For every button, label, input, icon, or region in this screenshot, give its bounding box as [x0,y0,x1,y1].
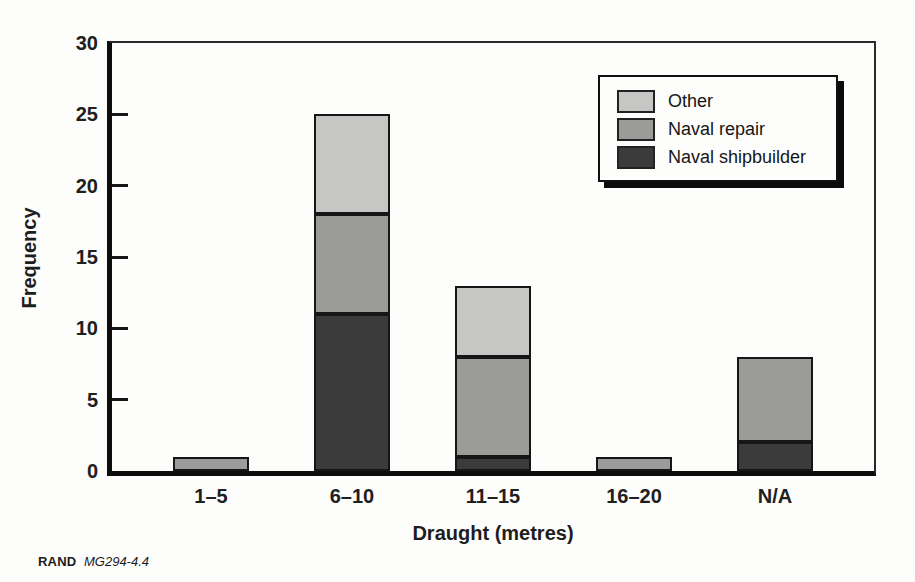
y-tick-mark-15 [112,256,128,259]
bar-segment-16-20-naval-repair [596,457,672,471]
x-axis-title: Draught (metres) [412,522,573,545]
bar-segment-1-5-naval-repair [173,457,249,471]
y-tick-label-20: 20 [40,174,98,198]
legend-label-other: Other [668,90,713,113]
y-tick-label-0: 0 [40,459,98,483]
document-id-label: MG294-4.4 [84,554,149,569]
y-tick-mark-20 [112,184,128,187]
bar-segment-n-a-naval-repair [737,357,813,442]
bar-segment-6-10-naval-shipbuilder [314,314,390,471]
y-tick-label-30: 30 [40,31,98,55]
bar-segment-n-a-naval-shipbuilder [737,442,813,471]
legend-swatch-naval-repair [617,118,655,141]
y-tick-label-15: 15 [40,245,98,269]
y-axis-title: Frequency [18,207,41,308]
y-tick-label-10: 10 [40,316,98,340]
legend-swatch-other [617,90,655,113]
y-tick-mark-25 [112,113,128,116]
legend-item-naval-shipbuilder: Naval shipbuilder [617,146,826,169]
bar-segment-6-10-other [314,114,390,214]
y-tick-label-5: 5 [40,388,98,412]
x-tick-label-6-10: 6–10 [287,485,417,508]
y-tick-mark-10 [112,327,128,330]
bar-segment-11-15-naval-repair [455,357,531,457]
y-tick-label-25: 25 [40,102,98,126]
legend-item-other: Other [617,90,826,113]
x-tick-label-1-5: 1–5 [146,485,276,508]
x-tick-label-16-20: 16–20 [569,485,699,508]
bar-segment-6-10-naval-repair [314,214,390,314]
figure-source: RAND MG294-4.4 [38,554,149,569]
y-tick-mark-5 [112,398,128,401]
x-tick-label-11-15: 11–15 [428,485,558,508]
legend-label-naval-shipbuilder: Naval shipbuilder [668,146,806,169]
legend-swatch-naval-shipbuilder [617,146,655,169]
stacked-bar-chart-figure: Frequency 051015202530 1–56–1011–1516–20… [0,0,915,582]
bar-segment-11-15-other [455,286,531,357]
legend-label-naval-repair: Naval repair [668,118,765,141]
legend: OtherNaval repairNaval shipbuilder [598,75,838,182]
x-tick-label-n-a: N/A [710,485,840,508]
legend-item-naval-repair: Naval repair [617,118,826,141]
bar-segment-11-15-naval-shipbuilder [455,457,531,471]
rand-brand-label: RAND [38,554,76,569]
